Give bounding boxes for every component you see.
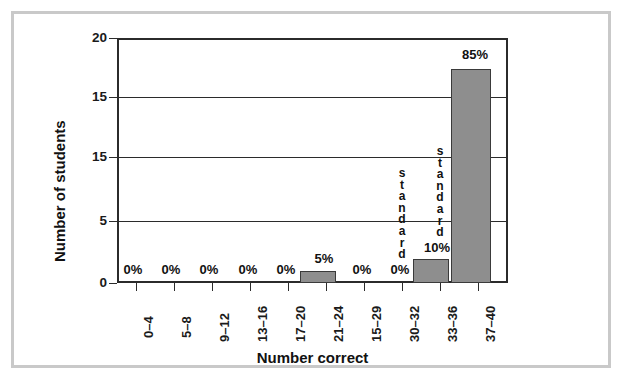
x-category-label-5-8: 5–8: [180, 316, 193, 338]
x-tick-mark-21-24: [326, 283, 327, 291]
annotation-standard-33-36: s t a n d a r d: [433, 146, 447, 239]
x-tick-mark-5-8: [174, 283, 175, 291]
x-category-label-9-12: 9–12: [218, 313, 231, 342]
x-tick-mark-33-36: [440, 283, 441, 291]
annotation-letter: d: [395, 249, 409, 261]
x-tick-mark-30-32: [402, 283, 403, 291]
x-category-label-21-24: 21–24: [332, 306, 345, 342]
y-tick-label-5: 5: [67, 214, 107, 228]
x-category-label-0-4: 0–4: [142, 316, 155, 338]
y-tick-label-20: 20: [67, 31, 107, 45]
y-tick-label-0: 0: [67, 276, 107, 290]
bar-value-label-37-40: 85%: [450, 48, 500, 61]
x-axis-title: Number correct: [117, 350, 508, 365]
gridline-5: [119, 221, 506, 222]
x-category-label-15-29: 15–29: [370, 306, 383, 342]
x-tick-mark-17-20: [288, 283, 289, 291]
x-category-label-33-36: 33–36: [446, 306, 459, 342]
gridline-15: [119, 97, 506, 98]
y-tick-mark-10: [109, 157, 117, 158]
y-tick-mark-20: [109, 38, 117, 39]
y-tick-label-15: 15: [67, 90, 107, 104]
y-tick-mark-15: [109, 97, 117, 98]
x-category-label-13-16: 13–16: [256, 306, 269, 342]
x-tick-mark-37-40: [478, 283, 479, 291]
x-tick-mark-13-16: [250, 283, 251, 291]
x-tick-mark-0-4: [136, 283, 137, 291]
x-tick-mark-9-12: [212, 283, 213, 291]
x-category-label-37-40: 37–40: [484, 306, 497, 342]
x-category-label-30-32: 30–32: [408, 306, 421, 342]
x-category-label-17-20: 17–20: [294, 306, 307, 342]
y-axis-title: Number of students: [52, 120, 67, 262]
y-tick-label-10: 15: [67, 150, 107, 164]
bar-value-label-33-36: 10%: [412, 241, 462, 254]
annotation-letter: d: [433, 227, 447, 239]
x-tick-mark-15-29: [364, 283, 365, 291]
y-tick-mark-5: [109, 221, 117, 222]
gridline-10: [119, 157, 506, 158]
chart-figure: 20 15 15 5 0 Number of students 0% 0% 0%…: [0, 0, 626, 382]
bar-value-label-30-32: 0%: [375, 263, 425, 276]
y-tick-mark-0: [109, 283, 117, 284]
annotation-standard-30-32: s t a n d a r d: [395, 168, 409, 261]
